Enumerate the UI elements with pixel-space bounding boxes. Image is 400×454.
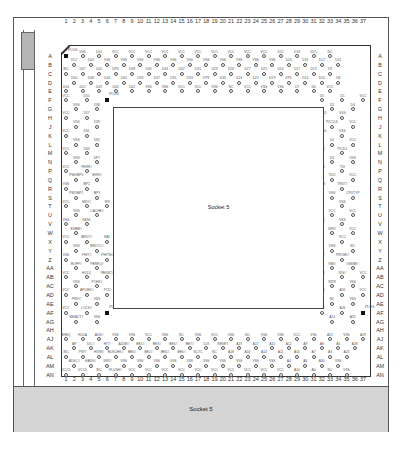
pin	[229, 355, 233, 359]
pin-label: PHITM#	[101, 254, 113, 257]
pin	[279, 373, 283, 377]
pin	[155, 346, 159, 350]
pin-label: D62	[94, 139, 100, 142]
pin	[312, 373, 316, 377]
pin	[229, 337, 233, 341]
column-number: 27	[277, 18, 283, 24]
pin-label: VCC	[63, 289, 70, 292]
column-number: 18	[203, 18, 209, 24]
row-label: T	[372, 203, 388, 209]
pin	[171, 81, 175, 85]
pin-label: D14	[302, 77, 308, 80]
pin-label: A31	[339, 289, 345, 292]
pin	[64, 275, 68, 279]
pin-label: VSS	[339, 218, 346, 221]
pin	[351, 160, 355, 164]
pin-label: NC	[229, 86, 234, 89]
pin	[85, 240, 89, 244]
row-label: AN	[372, 372, 388, 378]
pin-label: D2	[330, 103, 334, 106]
pin	[330, 320, 334, 324]
pin	[330, 302, 334, 306]
pin	[180, 54, 184, 58]
pin-label: VSS	[79, 50, 86, 53]
row-label: L	[372, 142, 388, 148]
pin-label: D8	[336, 77, 340, 80]
pin-label: VSS	[277, 86, 284, 89]
pin	[262, 54, 266, 58]
pin-label: NC	[245, 333, 250, 336]
pin	[72, 63, 76, 67]
plug-marker	[64, 54, 68, 58]
row-label: AK	[372, 345, 388, 351]
pin	[279, 337, 283, 341]
column-number: 36	[352, 18, 358, 24]
pin-label: D34	[162, 68, 168, 71]
pin	[213, 54, 217, 58]
pin	[64, 240, 68, 244]
row-label: P	[372, 168, 388, 174]
pin	[81, 373, 85, 377]
column-number: 19	[211, 18, 217, 24]
pin	[147, 89, 151, 93]
pin	[105, 204, 109, 208]
plug-label: PLUG	[68, 49, 78, 53]
pin-label: VSS	[203, 360, 210, 363]
row-label: AH	[42, 327, 58, 333]
pin	[340, 151, 344, 155]
pin-label: D3	[330, 156, 334, 159]
pin-label: VSS	[170, 360, 177, 363]
pin-label: VSS	[162, 86, 169, 89]
pin	[204, 364, 208, 368]
pin	[163, 373, 167, 377]
pin-label: NC	[212, 351, 217, 354]
row-label: AE	[42, 301, 58, 307]
pin	[279, 355, 283, 359]
pin	[81, 355, 85, 359]
pin-label: SCYC	[193, 351, 202, 354]
pin	[74, 160, 78, 164]
pin	[270, 81, 274, 85]
row-label: Z	[42, 257, 58, 263]
pin-label: VCC	[63, 165, 70, 168]
pin	[74, 213, 78, 217]
pin	[85, 293, 89, 297]
pin	[287, 63, 291, 67]
pin-label: D21	[253, 77, 259, 80]
pin	[85, 222, 89, 226]
pin	[74, 107, 78, 111]
pin	[237, 63, 241, 67]
pin-label: D61	[84, 130, 90, 133]
row-label: T	[42, 203, 58, 209]
pin	[196, 54, 200, 58]
pin	[130, 89, 134, 93]
pin-label: ADSC#	[69, 360, 80, 363]
pin	[295, 373, 299, 377]
pin-label: TDO	[329, 174, 336, 177]
pin-label: D0	[330, 139, 334, 142]
pin-label: VSS	[186, 360, 193, 363]
pin-label: D24	[277, 68, 283, 71]
pin	[312, 337, 316, 341]
pin	[221, 364, 225, 368]
pin-label: VCC	[178, 86, 185, 89]
scroll-slider[interactable]	[21, 32, 35, 70]
pin-label: A10	[294, 351, 300, 354]
column-number: 33	[327, 18, 333, 24]
row-label: Q	[42, 177, 58, 183]
pin-label: VSS	[153, 59, 160, 62]
row-label: AD	[372, 292, 388, 298]
row-label: AA	[372, 265, 388, 271]
pin	[89, 364, 93, 368]
column-number: 9	[130, 18, 133, 24]
pin-label: VSS	[73, 210, 80, 213]
scroll-rail[interactable]	[23, 30, 35, 386]
pin-label: VSS	[219, 360, 226, 363]
pin	[72, 364, 76, 368]
pin	[213, 337, 217, 341]
pin-label: DP1	[286, 77, 292, 80]
column-number: 6	[106, 18, 109, 24]
pin-label: CLK	[203, 342, 209, 345]
pin-label: VSS	[339, 201, 346, 204]
pin-label: DP4	[112, 68, 118, 71]
